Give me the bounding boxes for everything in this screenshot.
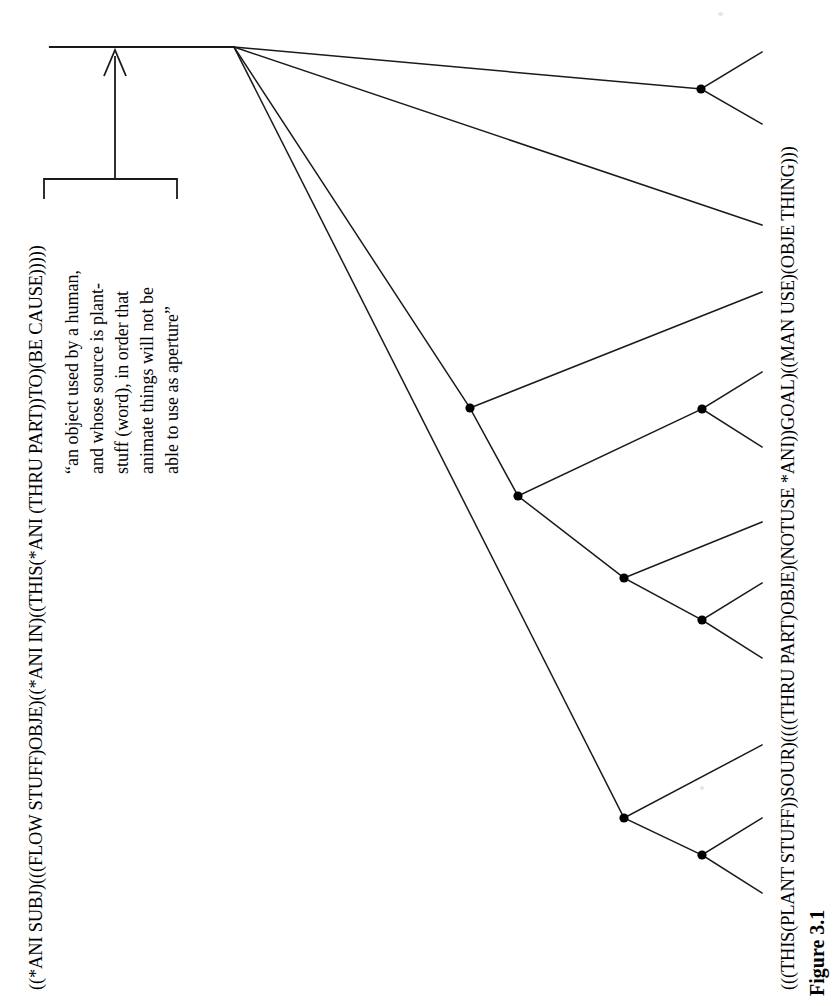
tree-edge: [624, 745, 762, 818]
tree-edge: [624, 522, 762, 578]
tree-edge: [470, 408, 518, 496]
tree-edge: [701, 52, 762, 89]
tree-edge: [702, 818, 762, 855]
tree-edge: [702, 409, 762, 447]
gloss-line: animate things will not be: [135, 174, 160, 474]
tree-edge: [701, 89, 762, 124]
gloss-line: “an object used by a human,: [60, 174, 85, 474]
paper-speck: [718, 12, 723, 16]
tree-node: [697, 850, 706, 859]
dependency-tree-diagram: [0, 0, 833, 1006]
tree-node: [696, 84, 705, 93]
tree-edge: [624, 578, 702, 620]
tree-edge: [234, 47, 624, 818]
tree-node: [619, 813, 628, 822]
english-gloss-block: “an object used by a human, and whose so…: [60, 174, 185, 474]
tree-edge: [518, 496, 624, 578]
tree-node: [619, 573, 628, 582]
gloss-line: able to use as aperture”: [160, 174, 185, 474]
tree-node: [697, 615, 706, 624]
figure-caption: Figure 3.1: [806, 910, 829, 996]
gloss-line: and whose source is plant-: [85, 174, 110, 474]
gloss-line: stuff (word), in order that: [110, 174, 135, 474]
tree-node: [513, 491, 522, 500]
tree-edge: [234, 47, 762, 225]
tree-edge: [470, 292, 762, 408]
tree-edge: [702, 583, 762, 620]
tree-edge: [702, 372, 762, 409]
paper-speck: [700, 786, 704, 790]
tree-edge: [624, 818, 702, 855]
right-semantic-formula: (((THIS(PLANT STUFF))SOUR)((((THRU PART)…: [778, 146, 799, 990]
tree-edge: [234, 47, 701, 89]
tree-edge: [234, 47, 470, 408]
tree-node: [465, 403, 474, 412]
tree-edge: [702, 855, 762, 893]
tree-edge: [702, 620, 762, 658]
figure-page: ((*ANI SUBJ)(((FLOW STUFF)OBJE)((*ANI IN…: [0, 0, 833, 1006]
tree-edge: [518, 409, 702, 496]
tree-node: [697, 404, 706, 413]
left-semantic-formula: ((*ANI SUBJ)(((FLOW STUFF)OBJE)((*ANI IN…: [26, 245, 47, 990]
